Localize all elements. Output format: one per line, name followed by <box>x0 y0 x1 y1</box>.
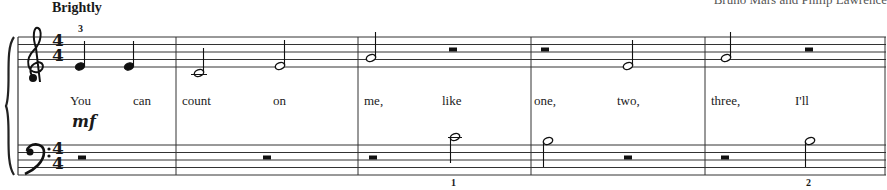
dynamic-marking: mf <box>72 112 96 131</box>
time-sig-bottom: 4 <box>52 156 64 171</box>
lyric: me, <box>364 93 383 109</box>
treble-notes <box>74 32 813 78</box>
lyric: count <box>182 93 211 109</box>
lyric: three, <box>711 93 740 109</box>
fingering-bass-m5: 2 <box>806 177 811 188</box>
fingering-bass-m3: 1 <box>451 177 456 188</box>
treble-clef-icon <box>28 28 43 82</box>
fingering-treble-m1: 3 <box>78 23 83 34</box>
lyric: two, <box>617 93 640 109</box>
lyric: one, <box>534 93 556 109</box>
treble-time-signature: 4 4 <box>52 33 64 63</box>
bass-time-signature: 4 4 <box>52 141 64 171</box>
time-sig-bottom: 4 <box>52 48 64 63</box>
brace-icon <box>6 37 14 175</box>
lyric: can <box>133 93 151 109</box>
bass-clef-icon <box>25 144 51 174</box>
lyric: You <box>70 93 91 109</box>
treble-staff <box>18 37 886 67</box>
bass-staff <box>18 145 886 175</box>
lyric: I'll <box>795 93 809 109</box>
lyric: like <box>442 93 462 109</box>
lyric: on <box>273 93 286 109</box>
